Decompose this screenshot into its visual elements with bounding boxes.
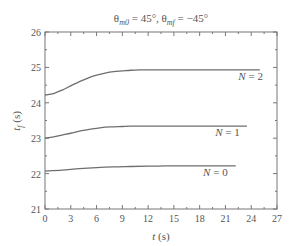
y-tick-label: 25 [31,62,41,73]
axes: 0369121518212427212223242526 [31,27,282,224]
x-tick-label: 18 [195,213,205,224]
x-tick-label: 0 [43,213,48,224]
chart-title: θm0 = 45°, θmf = −45° [114,12,208,27]
y-tick-label: 24 [31,98,41,109]
x-tick-label: 3 [68,213,73,224]
plot-frame [45,32,277,209]
x-tick-label: 6 [94,213,99,224]
series-labels: N = 2N = 1N = 0 [202,70,263,179]
series-label: N = 1 [214,126,240,138]
series-line-n2 [45,70,260,95]
x-tick-label: 9 [120,213,125,224]
x-tick-label: 27 [272,213,282,224]
y-tick-label: 22 [31,169,41,180]
series-label: N = 0 [202,166,228,178]
y-axis-label: tf (s) [10,111,25,131]
chart: θm0 = 45°, θmf = −45° 036912151821242721… [0,0,298,246]
y-tick-label: 21 [31,204,41,215]
series-lines [45,70,260,171]
x-tick-label: 24 [246,213,256,224]
x-tick-label: 21 [220,213,230,224]
y-tick-label: 23 [31,133,41,144]
y-tick-label: 26 [31,27,41,38]
series-label: N = 2 [237,70,263,82]
x-axis-label: t (s) [152,230,170,243]
x-tick-label: 12 [143,213,153,224]
x-tick-label: 15 [169,213,179,224]
